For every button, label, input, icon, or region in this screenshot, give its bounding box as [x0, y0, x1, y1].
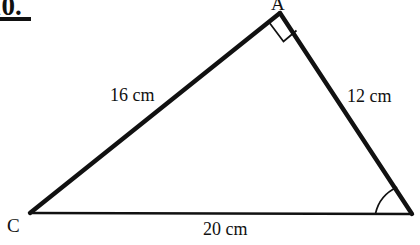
angle-arc-marker-icon — [376, 188, 397, 214]
triangle-side-ab — [280, 13, 412, 214]
triangle-figure — [0, 0, 420, 245]
side-length-label-ab: 12 cm — [347, 87, 392, 105]
triangle-side-cb — [30, 213, 412, 214]
side-length-label-cb: 20 cm — [203, 220, 248, 238]
vertex-label-c: C — [7, 216, 20, 235]
triangle-side-ca — [30, 13, 280, 213]
side-length-label-ca: 16 cm — [110, 86, 155, 104]
vertex-label-a: A — [271, 0, 285, 13]
figure-page: 10. A C 16 cm 12 cm 20 cm — [0, 0, 420, 245]
